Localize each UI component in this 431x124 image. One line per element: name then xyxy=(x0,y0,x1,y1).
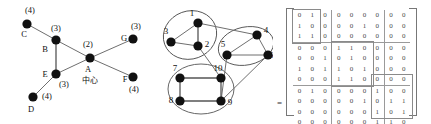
matrix-cell: 0 xyxy=(358,85,371,96)
matrix-cell: 0 xyxy=(384,53,397,64)
matrix-cell: 0 xyxy=(358,107,371,118)
node-label-10: 10 xyxy=(214,63,224,73)
node-label-9: 9 xyxy=(228,97,233,107)
matrix-cell: 0 xyxy=(306,96,319,107)
matrix-cell: 0 xyxy=(319,74,332,85)
matrix-row: 010000100 xyxy=(293,85,410,96)
matrix-cell: 0 xyxy=(306,74,319,85)
matrix-cell: 0 xyxy=(371,96,384,107)
matrix-row: 000110000 xyxy=(293,42,410,53)
matrix-cell: 1 xyxy=(397,107,410,118)
matrix-cell: 0 xyxy=(306,53,319,64)
matrix-cell: 0 xyxy=(345,10,358,21)
matrix-cell: 0 xyxy=(384,21,397,32)
matrix-cell: 0 xyxy=(358,74,371,85)
node-E[interactable] xyxy=(51,69,60,78)
matrix-cell: 1 xyxy=(358,64,371,75)
matrix-cell: 0 xyxy=(384,74,397,85)
matrix-cell: 1 xyxy=(371,117,384,124)
matrix-cell: 0 xyxy=(345,107,358,118)
node-D[interactable] xyxy=(28,92,37,101)
matrix-cell: 0 xyxy=(345,21,358,32)
matrix-cell: 0 xyxy=(397,31,410,42)
matrix-wrapper: = 01000000010000100011000000000011000000… xyxy=(273,0,431,124)
node-8[interactable] xyxy=(175,96,184,105)
node-label-D: D xyxy=(28,104,34,114)
matrix-cell: 0 xyxy=(319,96,332,107)
node-B[interactable] xyxy=(51,35,60,44)
node-1[interactable] xyxy=(193,18,202,27)
node-7[interactable] xyxy=(175,73,184,82)
matrix-cell: 1 xyxy=(384,117,397,124)
degree-label-A: (2) xyxy=(83,39,93,49)
matrix-cell: 1 xyxy=(371,107,384,118)
matrix-cell: 1 xyxy=(332,74,345,85)
degree-label-E: (3) xyxy=(59,79,69,89)
matrix-cell: 0 xyxy=(293,42,306,53)
node-5[interactable] xyxy=(222,50,231,59)
matrix-cell: 1 xyxy=(345,42,358,53)
matrix-cell: 0 xyxy=(384,31,397,42)
matrix-cell: 1 xyxy=(319,64,332,75)
matrix-cell: 0 xyxy=(306,21,319,32)
figure-root: (2) A 中心 (3) B (4) C (4) D E (3) F (4) G… xyxy=(0,0,431,124)
matrix-cell: 0 xyxy=(397,42,410,53)
matrix-cell: 0 xyxy=(332,53,345,64)
matrix-cell: 0 xyxy=(293,85,306,96)
matrix-cell: 0 xyxy=(358,10,371,21)
matrix-cell: 0 xyxy=(384,107,397,118)
matrix-cell: 0 xyxy=(293,53,306,64)
matrix-cell: 1 xyxy=(306,10,319,21)
matrix-cell: 0 xyxy=(345,31,358,42)
matrix-cell: 0 xyxy=(293,10,306,21)
node-9[interactable] xyxy=(216,96,225,105)
matrix-cell: 0 xyxy=(397,74,410,85)
node-10[interactable] xyxy=(216,73,225,82)
degree-label-D: (4) xyxy=(42,91,52,101)
left-graph-edges xyxy=(27,24,133,97)
matrix-cell: 0 xyxy=(397,53,410,64)
matrix-cell: 1 xyxy=(306,85,319,96)
node-label-1: 1 xyxy=(190,8,195,18)
node-G[interactable] xyxy=(128,34,137,43)
node-label-7: 7 xyxy=(173,63,178,73)
matrix-cell: 0 xyxy=(371,21,384,32)
node-label-C: C xyxy=(21,29,27,39)
left-graph-nodes xyxy=(22,19,137,101)
matrix-row: 110000000 xyxy=(293,31,410,42)
center-annotation: 中心 xyxy=(82,75,98,85)
matrix-cell: 0 xyxy=(358,53,371,64)
matrix-cell: 0 xyxy=(371,64,384,75)
node-3[interactable] xyxy=(166,37,175,46)
matrix-cell: 0 xyxy=(306,42,319,53)
matrix-cell: 1 xyxy=(345,74,358,85)
matrix-row: 100001000 xyxy=(293,21,410,32)
matrix-cell: 1 xyxy=(332,64,345,75)
matrix-cell: 0 xyxy=(332,107,345,118)
middle-graph-svg: 1 2 3 4 5 6 7 8 9 10 xyxy=(145,0,273,124)
node-2[interactable] xyxy=(193,41,202,50)
node-label-G: G xyxy=(121,33,127,43)
matrix-cell: 1 xyxy=(306,31,319,42)
matrix-cell: 0 xyxy=(319,107,332,118)
node-A[interactable] xyxy=(85,53,94,62)
node-F[interactable] xyxy=(128,72,137,81)
matrix-cell: 0 xyxy=(332,117,345,124)
left-graph-panel: (2) A 中心 (3) B (4) C (4) D E (3) F (4) G… xyxy=(0,0,145,124)
node-4[interactable] xyxy=(252,30,261,39)
matrix-cell: 1 xyxy=(319,53,332,64)
node-C[interactable] xyxy=(22,19,31,28)
matrix-right-bracket xyxy=(409,8,417,116)
matrix-cell: 0 xyxy=(345,64,358,75)
matrix-cell: 0 xyxy=(319,117,332,124)
cluster-outlines xyxy=(156,3,273,114)
cluster-3-ellipse xyxy=(168,64,234,114)
matrix-cell: 1 xyxy=(397,96,410,107)
matrix-cell: 0 xyxy=(384,85,397,96)
matrix-cell: 0 xyxy=(332,31,345,42)
degree-label-G: (3) xyxy=(131,21,141,31)
matrix-cell: 0 xyxy=(345,85,358,96)
adjacency-matrix-table: 0100000001000010001100000000001100000010… xyxy=(293,10,410,124)
matrix-cell: 0 xyxy=(384,42,397,53)
matrix-row: 000001011 xyxy=(293,96,410,107)
